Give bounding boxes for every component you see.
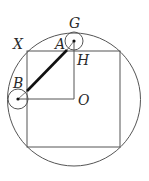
- label-G: G: [69, 15, 80, 31]
- geometry-diagram: G X A H B O: [0, 0, 149, 181]
- center-dot-left: [16, 97, 19, 100]
- label-O: O: [78, 92, 90, 108]
- label-B: B: [12, 75, 23, 91]
- label-H: H: [76, 52, 90, 68]
- thick-segment-AB: [27, 50, 67, 91]
- label-X: X: [12, 36, 24, 52]
- label-A: A: [53, 36, 65, 52]
- center-dot-top: [72, 39, 75, 42]
- radius-top-to-A: [67, 41, 74, 50]
- radius-left-to-B: [18, 91, 27, 99]
